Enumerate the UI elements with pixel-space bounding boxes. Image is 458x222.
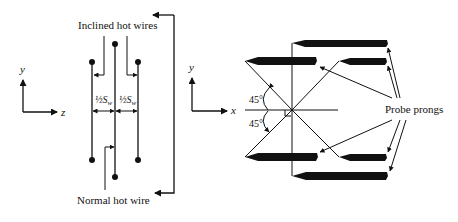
left-z-label: z [60,106,66,118]
spacing-label-right: ½Sw [119,94,137,107]
wire-end-dot [89,157,95,163]
hot-wire-probe-diagram: y z Inclined hot wires ½Sw ½Sw Normal ho… [0,0,458,222]
angle-arc-upper [263,88,269,110]
angle-label-lower: 45° [249,118,263,129]
right-x-label: x [230,104,236,116]
right-probe-view: 45° 45° Probe prongs [245,40,443,180]
wire-end-dot [135,157,141,163]
spacing-label-left: ½Sw [95,94,113,107]
wire-end-dot [112,41,118,47]
prong-leader [320,67,392,98]
prong-leader [390,120,406,171]
inclined-leader-left [94,36,104,75]
wire-end-dot [89,59,95,65]
inclined-wire-b-upper [292,61,339,110]
angle-arc-lower [263,111,269,132]
angle-label-upper: 45° [249,94,263,105]
left-axes: y z [19,63,66,118]
left-wire-view: Inclined hot wires ½Sw ½Sw Normal hot wi… [77,15,174,206]
probe-prong-top [292,40,388,47]
inclined-wire-a-lower [292,110,339,157]
prong-leader [388,120,400,152]
normal-hot-wire-label: Normal hot wire [77,194,150,206]
wire-end-dot [112,174,118,180]
inclined-hot-wires-label: Inclined hot wires [78,19,157,31]
right-axes: y x [188,61,236,116]
wire-end-dot [135,59,141,65]
right-angle-mark [285,110,291,116]
probe-prongs-label: Probe prongs [385,103,443,115]
right-y-label: y [188,61,194,73]
probe-prong-lower-right [339,154,387,161]
probe-prong-bottom [292,172,388,180]
left-y-label: y [19,63,25,75]
probe-prong-upper-right [339,58,387,65]
probe-prong-lower-left [245,153,318,161]
normal-leader [105,147,114,190]
prong-leader [320,120,392,152]
probe-prong-upper-left [245,57,317,65]
view-bracket-bottom [155,15,174,193]
inclined-leader-right [127,36,137,75]
